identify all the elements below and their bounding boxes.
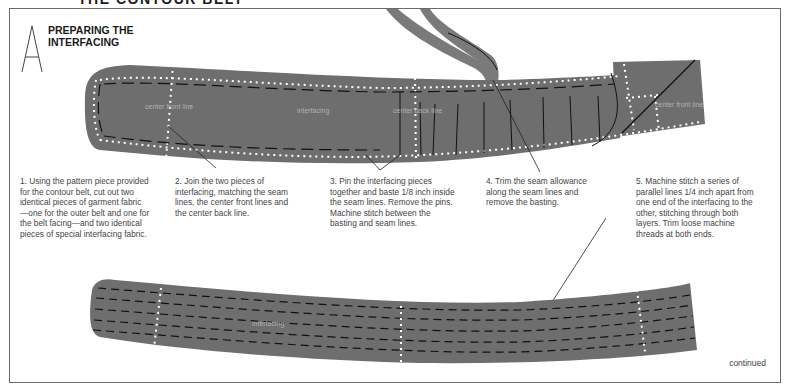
label-center-back: center back line — [393, 107, 442, 114]
label-interfacing-top: interfacing — [297, 107, 329, 114]
step-4-text: 4. Trim the seam allowance along the sea… — [486, 176, 601, 208]
step-1-text: 1. Using the pattern piece provided for … — [20, 176, 150, 240]
step-2-text: 2. Join the two pieces of interfacing, m… — [175, 176, 300, 218]
step-3-text: 3. Pin the interfacing pieces together a… — [330, 176, 455, 229]
label-center-front-left: center front line — [145, 103, 193, 110]
continued-label: continued — [729, 358, 766, 368]
step-5-text: 5. Machine stitch a series of parallel l… — [636, 176, 761, 240]
bottom-belt — [90, 279, 697, 363]
label-interfacing-bottom: interfacing — [252, 320, 284, 327]
label-center-front-right: center front line — [655, 101, 703, 108]
